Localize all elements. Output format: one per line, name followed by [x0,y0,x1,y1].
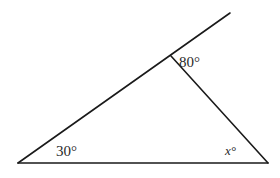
angle-label-30: 30° [56,144,77,159]
angle-label-80: 80° [179,55,200,70]
angle-label-x: x° [225,144,236,157]
side-extended-line [18,13,230,163]
side-right-line [171,56,268,163]
triangle-diagram [0,0,280,178]
